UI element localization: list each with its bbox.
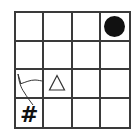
cell-2-2[interactable] xyxy=(73,70,101,99)
cell-3-0[interactable]: # xyxy=(16,99,44,128)
cell-2-1[interactable] xyxy=(44,70,72,99)
cell-1-2[interactable] xyxy=(73,42,101,71)
hash-piece: # xyxy=(16,99,42,128)
cell-1-3[interactable] xyxy=(101,42,129,71)
cell-0-0[interactable] xyxy=(16,13,44,42)
filled-circle-piece xyxy=(101,13,129,40)
game-board: # xyxy=(14,11,131,129)
cell-0-3[interactable] xyxy=(101,13,129,42)
hash-icon: # xyxy=(20,104,38,126)
cell-0-2[interactable] xyxy=(73,13,101,42)
cell-2-3[interactable] xyxy=(101,70,129,99)
cell-1-1[interactable] xyxy=(44,42,72,71)
cell-2-0[interactable] xyxy=(16,70,44,99)
triangle-piece xyxy=(44,70,70,97)
cell-0-1[interactable] xyxy=(44,13,72,42)
cell-1-0[interactable] xyxy=(16,42,44,71)
cell-3-1[interactable] xyxy=(44,99,72,128)
circle-icon xyxy=(104,16,125,37)
triangle-icon xyxy=(48,74,66,92)
cell-3-3[interactable] xyxy=(101,99,129,128)
cell-3-2[interactable] xyxy=(73,99,101,128)
